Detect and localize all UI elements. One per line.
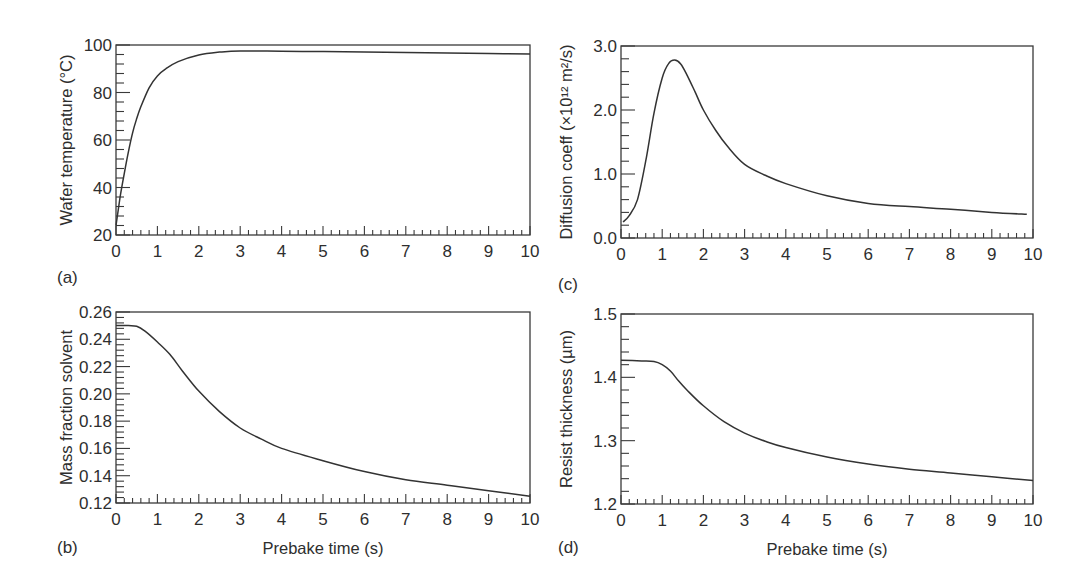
x-tick-label: 7 [905, 511, 914, 530]
x-tick-label: 7 [401, 242, 410, 261]
y-tick-label: 0.16 [79, 439, 112, 458]
x-tick-label: 8 [946, 245, 955, 264]
x-tick-label: 5 [318, 510, 327, 529]
y-tick-label: 1.3 [593, 432, 617, 451]
data-curve [116, 51, 530, 226]
x-tick-label: 3 [740, 511, 749, 530]
x-axis-label: Prebake time (s) [262, 539, 383, 557]
x-tick-label: 1 [153, 510, 162, 529]
data-curve [623, 60, 1027, 222]
panel-d-resist-thickness: 0123456789101.21.31.41.5Resist thickness… [557, 305, 1042, 558]
data-curve [116, 326, 530, 497]
y-tick-label: 60 [93, 131, 112, 150]
panel-tag: (c) [558, 275, 578, 294]
y-tick-label: 2.0 [593, 101, 617, 120]
figure-4-panel: 01234567891020406080100Wafer temperature… [0, 0, 1086, 583]
panel-a-wafer-temperature: 01234567891020406080100Wafer temperature… [57, 36, 539, 287]
x-tick-label: 9 [484, 242, 493, 261]
x-tick-label: 10 [521, 510, 540, 529]
plot-frame [116, 312, 530, 503]
y-tick-label: 1.4 [593, 368, 617, 387]
x-tick-label: 8 [442, 242, 451, 261]
x-tick-label: 3 [740, 245, 749, 264]
x-tick-label: 4 [277, 242, 286, 261]
y-tick-label: 0.18 [79, 412, 112, 431]
y-tick-label: 20 [93, 226, 112, 245]
x-tick-label: 9 [987, 245, 996, 264]
x-tick-label: 1 [153, 242, 162, 261]
x-tick-label: 8 [946, 511, 955, 530]
y-tick-label: 3.0 [593, 37, 617, 56]
x-tick-label: 1 [657, 245, 666, 264]
y-tick-label: 100 [84, 36, 112, 55]
x-axis-label: Prebake time (s) [766, 540, 887, 558]
panel-tag: (a) [57, 268, 78, 287]
x-tick-label: 0 [616, 245, 625, 264]
y-axis-label: Mass fraction solvent [57, 330, 75, 485]
y-tick-label: 0.20 [79, 385, 112, 404]
x-tick-label: 5 [822, 511, 831, 530]
x-tick-label: 10 [521, 242, 540, 261]
y-axis-label: Wafer temperature (°C) [57, 54, 75, 225]
panel-tag: (d) [558, 538, 579, 557]
x-tick-label: 10 [1024, 511, 1043, 530]
y-tick-label: 1.2 [593, 495, 617, 514]
x-tick-label: 7 [905, 245, 914, 264]
x-tick-label: 5 [822, 245, 831, 264]
x-tick-label: 3 [235, 510, 244, 529]
x-tick-label: 8 [442, 510, 451, 529]
panel-b-mass-fraction: 0123456789100.120.140.160.180.200.220.24… [57, 303, 539, 557]
x-tick-label: 7 [401, 510, 410, 529]
x-tick-label: 9 [484, 510, 493, 529]
x-tick-label: 4 [781, 511, 790, 530]
panel-tag: (b) [57, 538, 78, 557]
x-tick-label: 2 [194, 242, 203, 261]
x-tick-label: 4 [277, 510, 286, 529]
x-tick-label: 0 [111, 242, 120, 261]
y-tick-label: 80 [93, 84, 112, 103]
x-tick-label: 6 [863, 511, 872, 530]
y-tick-label: 0.26 [79, 303, 112, 322]
x-tick-label: 6 [360, 510, 369, 529]
x-tick-label: 3 [235, 242, 244, 261]
x-tick-label: 2 [699, 511, 708, 530]
x-tick-label: 2 [699, 245, 708, 264]
y-tick-label: 0.22 [79, 358, 112, 377]
data-curve [621, 360, 1033, 480]
y-tick-label: 0.12 [79, 494, 112, 513]
x-tick-label: 10 [1024, 245, 1043, 264]
y-tick-label: 1.0 [593, 165, 617, 184]
y-tick-label: 1.5 [593, 305, 617, 324]
x-tick-label: 2 [194, 510, 203, 529]
plot-frame [116, 45, 530, 235]
x-tick-label: 5 [318, 242, 327, 261]
y-tick-label: 0.0 [593, 229, 617, 248]
y-tick-label: 0.14 [79, 467, 112, 486]
y-tick-label: 40 [93, 179, 112, 198]
x-tick-label: 9 [987, 511, 996, 530]
x-tick-label: 0 [111, 510, 120, 529]
x-tick-label: 4 [781, 245, 790, 264]
x-tick-label: 1 [657, 511, 666, 530]
panel-c-diffusion-coeff: 0123456789100.01.02.03.0Diffusion coeff … [557, 37, 1042, 294]
plot-frame [621, 46, 1033, 238]
y-tick-label: 0.24 [79, 330, 112, 349]
x-tick-label: 6 [360, 242, 369, 261]
x-tick-label: 6 [863, 245, 872, 264]
y-axis-label: Diffusion coeff (×10¹² m²/s) [557, 44, 575, 239]
x-tick-label: 0 [616, 511, 625, 530]
y-axis-label: Resist thickness (µm) [557, 330, 575, 488]
